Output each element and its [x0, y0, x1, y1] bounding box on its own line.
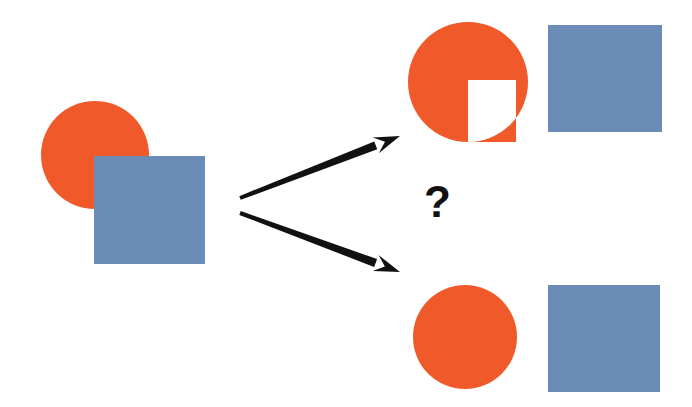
notched-orange-circle: [408, 22, 528, 142]
stimulus-blue-square: [94, 156, 205, 264]
notched-circle-interpretation-group: [408, 22, 662, 142]
arrow-to-top-interpretation: [239, 141, 377, 199]
arrow-to-bottom-interpretation-head: [373, 255, 400, 272]
arrow-group: [239, 136, 400, 272]
figure-canvas: ?: [0, 0, 692, 407]
complete-circle-interpretation-group: [413, 285, 660, 392]
stimulus-group: [41, 101, 205, 264]
complete-orange-circle: [413, 285, 517, 389]
question-mark: ?: [424, 180, 451, 224]
interpretation-b-blue-square: [548, 285, 660, 392]
arrow-to-top-interpretation-head: [373, 136, 400, 153]
arrow-to-bottom-interpretation: [239, 211, 377, 267]
diagram-svg: [0, 0, 692, 407]
interpretation-a-blue-square: [548, 25, 662, 132]
